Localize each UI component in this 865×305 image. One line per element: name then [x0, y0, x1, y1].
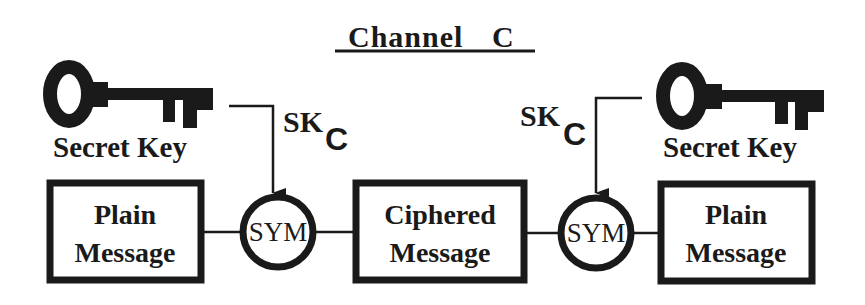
title-word: Channel — [348, 20, 463, 53]
right-key-arrow — [596, 98, 642, 193]
center-box-line1: Ciphered — [384, 199, 496, 230]
right-key-icon — [663, 69, 824, 130]
ciphered-message-box: Ciphered Message — [356, 183, 524, 280]
channel-diagram: Channel C Secret Key Secret Key — [0, 0, 865, 305]
right-sym-operator: SYM — [561, 198, 631, 268]
left-box-line1: Plain — [94, 199, 157, 230]
left-sym-operator: SYM — [243, 197, 313, 267]
left-sym-label: SYM — [249, 217, 308, 247]
right-plain-message-box: Plain Message — [661, 184, 812, 281]
title-letter: C — [492, 20, 515, 53]
left-key-label: Secret Key — [53, 131, 187, 163]
left-key-arrow — [229, 106, 273, 193]
right-key-label: Secret Key — [663, 131, 797, 163]
left-key-icon — [50, 67, 213, 128]
right-session-key-label: SK — [520, 99, 561, 132]
left-box-line2: Message — [74, 237, 175, 268]
left-session-key-subscript: C — [325, 121, 348, 157]
left-session-key-label: SK — [283, 105, 324, 138]
right-box-line2: Message — [685, 237, 786, 268]
right-sym-label: SYM — [567, 218, 626, 248]
right-box-line1: Plain — [705, 199, 768, 230]
center-box-line2: Message — [389, 237, 490, 268]
left-plain-message-box: Plain Message — [50, 183, 201, 280]
diagram-title: Channel C — [335, 20, 535, 53]
right-session-key-subscript: C — [563, 116, 586, 152]
